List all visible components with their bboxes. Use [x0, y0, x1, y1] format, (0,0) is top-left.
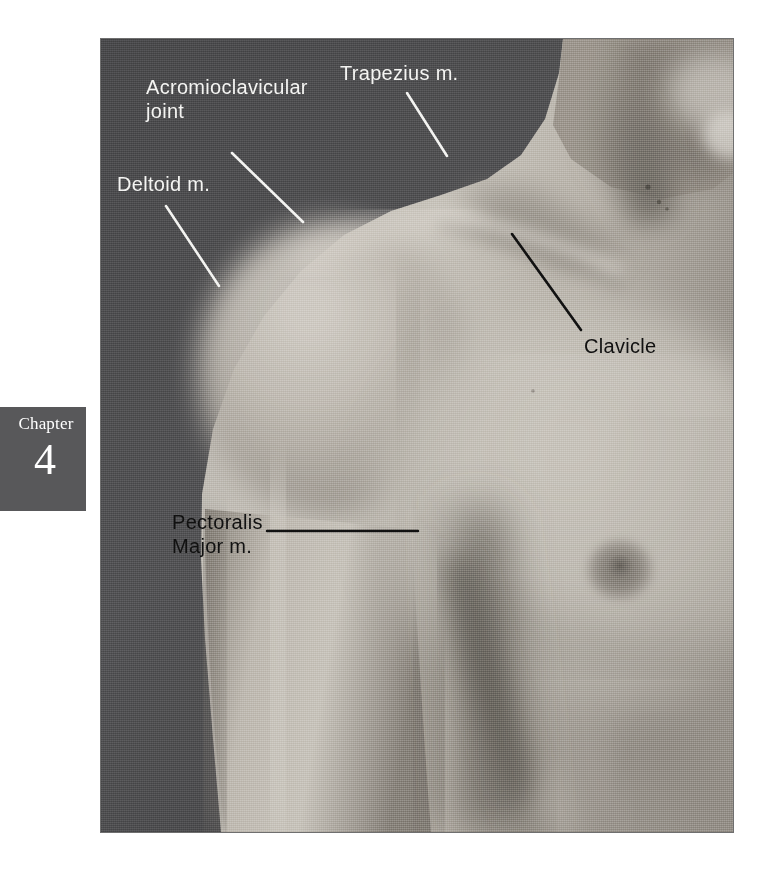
chapter-tab-word: Chapter: [6, 415, 86, 432]
photograph-artwork: [101, 39, 733, 832]
chapter-tab-number: 4: [4, 438, 86, 482]
nipple: [607, 555, 633, 579]
anatomy-photograph: Acromioclavicular joint Trapezius m. Del…: [101, 39, 733, 832]
chapter-tab: Chapter 4: [0, 407, 86, 511]
